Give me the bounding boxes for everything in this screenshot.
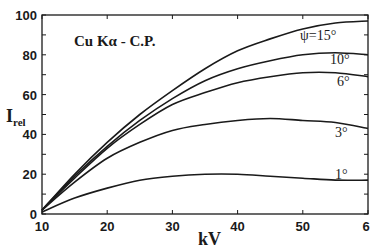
series-label: 1° (335, 167, 348, 182)
y-tick-label: 80 (23, 48, 37, 63)
series-labels: ψ=15°10°6°3°1° (300, 28, 350, 182)
curve-3deg (42, 118, 368, 210)
y-tick-label: 20 (23, 167, 37, 182)
curve-10deg (42, 53, 368, 210)
curve-15deg (42, 21, 368, 210)
series-label: 10° (330, 52, 350, 67)
curve-6deg (42, 72, 368, 210)
curve-1deg (42, 174, 368, 212)
x-tick-label: 20 (100, 219, 114, 234)
chart: 020406080100 10203040506 ψ=15°10°6°3°1° … (0, 0, 374, 251)
x-tick-label: 30 (165, 219, 179, 234)
x-tick-label: 6 (362, 219, 369, 234)
y-tick-label: 60 (23, 88, 37, 103)
y-tick-label: 40 (23, 127, 37, 142)
x-tick-label: 10 (35, 219, 49, 234)
series-label: 6° (337, 74, 350, 89)
y-tick-label: 100 (15, 8, 37, 23)
x-tick-label: 40 (230, 219, 244, 234)
y-axis-title-main: I (6, 106, 13, 126)
y-axis-title: Irel (6, 106, 26, 128)
series-label: 3° (335, 125, 348, 140)
chart-title: Cu Kα - C.P. (74, 33, 156, 49)
y-axis-title-sub: rel (13, 116, 26, 128)
series-label: ψ=15° (300, 28, 336, 43)
x-tick-label: 50 (296, 219, 310, 234)
x-axis-title: kV (198, 229, 221, 249)
curves (42, 21, 368, 212)
